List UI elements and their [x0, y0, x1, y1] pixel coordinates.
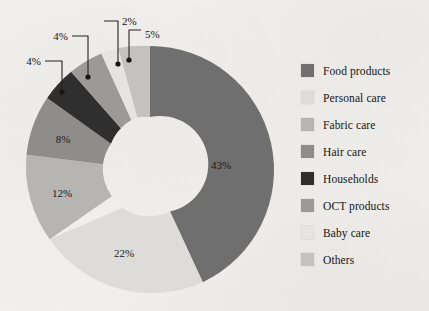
- slice-value-fabric-care: 12%: [52, 187, 72, 199]
- legend-item-oct-products[interactable]: OCT products: [301, 192, 427, 219]
- leader-dot-oct-products: [85, 74, 90, 79]
- legend-swatch-icon: [301, 145, 314, 158]
- legend-item-food-products[interactable]: Food products: [301, 57, 427, 84]
- legend-label: OCT products: [323, 200, 389, 212]
- legend-item-fabric-care[interactable]: Fabric care: [301, 111, 427, 138]
- legend-item-personal-care[interactable]: Personal care: [301, 84, 427, 111]
- leader-dot-baby-care: [115, 61, 120, 66]
- legend-label: Households: [323, 173, 378, 185]
- legend-swatch-icon: [301, 226, 314, 239]
- slice-value-personal-care: 22%: [114, 247, 134, 259]
- slice-value-hair-care: 8%: [56, 133, 71, 145]
- legend: Food products Personal care Fabric care …: [301, 57, 427, 273]
- slice-value-oct-products: 4%: [53, 30, 68, 42]
- legend-label: Baby care: [323, 227, 370, 239]
- legend-item-hair-care[interactable]: Hair care: [301, 138, 427, 165]
- legend-swatch-icon: [301, 64, 314, 77]
- slice-value-others: 5%: [145, 28, 160, 40]
- slice-value-households: 4%: [26, 55, 41, 67]
- legend-swatch-icon: [301, 199, 314, 212]
- legend-label: Food products: [323, 65, 390, 77]
- legend-label: Others: [323, 254, 354, 266]
- legend-label: Hair care: [323, 146, 366, 158]
- legend-swatch-icon: [301, 91, 314, 104]
- leader-dot-households: [59, 89, 64, 94]
- legend-item-others[interactable]: Others: [301, 246, 427, 273]
- slice-value-food-products: 43%: [211, 159, 231, 171]
- legend-swatch-icon: [301, 253, 314, 266]
- legend-label: Fabric care: [323, 119, 376, 131]
- chart-page: 43% 22% 12% 8% 4% 4% 2% 5% Food prod: [0, 0, 429, 311]
- legend-swatch-icon: [301, 172, 314, 185]
- leader-dot-others: [126, 57, 131, 62]
- legend-label: Personal care: [323, 92, 386, 104]
- slice-value-baby-care: 2%: [122, 15, 137, 27]
- legend-swatch-icon: [301, 118, 314, 131]
- legend-item-households[interactable]: Households: [301, 165, 427, 192]
- donut-slices: [26, 46, 274, 293]
- legend-item-baby-care[interactable]: Baby care: [301, 219, 427, 246]
